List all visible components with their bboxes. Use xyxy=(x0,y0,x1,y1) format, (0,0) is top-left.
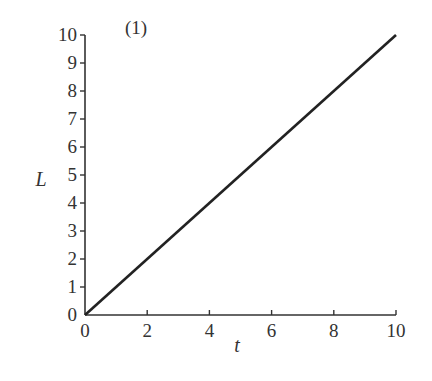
y-tick-label: 4 xyxy=(68,192,78,213)
y-tick-label: 1 xyxy=(68,276,78,297)
y-tick-label: 10 xyxy=(58,24,77,45)
y-tick-label: 8 xyxy=(68,80,78,101)
y-tick-label: 9 xyxy=(68,52,78,73)
data-line xyxy=(85,35,396,315)
y-tick-label: 6 xyxy=(68,136,78,157)
x-tick-label: 10 xyxy=(387,320,406,341)
x-tick-label: 2 xyxy=(142,320,152,341)
x-axis-label: t xyxy=(234,334,240,356)
chart-title: (1) xyxy=(125,17,147,39)
x-tick-label: 8 xyxy=(329,320,339,341)
y-tick-label: 7 xyxy=(68,108,78,129)
x-tick-label: 6 xyxy=(267,320,277,341)
y-tick-label: 5 xyxy=(68,164,78,185)
x-tick-label: 4 xyxy=(205,320,215,341)
y-tick-label: 0 xyxy=(68,304,78,325)
x-tick-label: 0 xyxy=(80,320,90,341)
y-axis-label: L xyxy=(34,168,46,190)
line-chart: 0123456789100246810(1)Lt xyxy=(0,0,432,381)
y-tick-label: 2 xyxy=(68,248,78,269)
y-tick-label: 3 xyxy=(68,220,78,241)
